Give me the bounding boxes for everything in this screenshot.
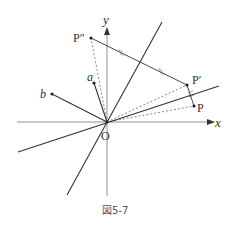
a-label: a	[87, 70, 93, 84]
point-origin	[106, 121, 109, 124]
Pdoubleprime-label: P″	[73, 31, 85, 45]
figure-caption: 図5-7	[102, 205, 128, 216]
dashed-O-Pdoubleprime	[91, 38, 107, 122]
origin-label: O	[101, 129, 110, 143]
b-label: b	[40, 87, 46, 101]
point-Pdoubleprime	[89, 36, 92, 39]
Pprime-label: P′	[192, 73, 202, 87]
y-axis-label: y	[101, 12, 109, 27]
vector-reflection-diagram: y x O P P′ P″ a b 図5-7	[0, 0, 235, 226]
x-axis-label: x	[214, 115, 221, 130]
segment-Pprime-Pdoubleprime	[91, 38, 187, 85]
point-b	[50, 92, 53, 95]
P-label: P	[197, 101, 204, 115]
line-shallow	[18, 86, 219, 152]
point-P	[192, 104, 195, 107]
dashed-O-Pprime	[107, 85, 187, 122]
point-Pprime	[185, 83, 188, 86]
